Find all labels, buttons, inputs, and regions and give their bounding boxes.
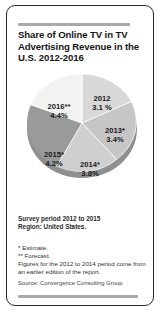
pie-label-2012-category: 2012 <box>81 94 123 103</box>
pie-label-2016: 2016** 4.4% <box>35 102 83 121</box>
top-accent-bar <box>18 23 130 26</box>
pie-label-2012-value: 3.1 % <box>81 103 123 112</box>
pie-label-2015: 2015* 4.2% <box>33 150 75 169</box>
chart-card: Share of Online TV in TV Advertising Rev… <box>6 5 154 306</box>
survey-region: Region: United States. <box>18 223 148 231</box>
pie-label-2012: 2012 3.1 % <box>81 94 123 113</box>
pie-label-2015-category: 2015* <box>33 150 75 159</box>
chart-title: Share of Online TV in TV Advertising Rev… <box>18 29 146 64</box>
footnote-figures: Figures for the 2012 to 2014 period come… <box>18 260 150 276</box>
pie-label-2015-value: 4.2% <box>33 159 75 168</box>
pie-label-2014-category: 2014* <box>69 160 111 169</box>
pie-label-2013: 2013* 3.4% <box>93 126 137 145</box>
survey-info: Survey period 2012 to 2015 Region: Unite… <box>18 215 148 232</box>
pie-label-2014: 2014* 3.8% <box>69 160 111 179</box>
pie-chart: 2012 3.1 % 2013* 3.4% 2014* 3.8% 2015* 4… <box>21 68 143 188</box>
pie-label-2013-value: 3.4% <box>93 135 137 144</box>
pie-label-2016-category: 2016** <box>35 102 83 111</box>
footnote-forecast: ** Forecast. <box>18 252 150 260</box>
pie-label-2013-category: 2013* <box>93 126 137 135</box>
pie-label-2014-value: 3.8% <box>69 169 111 178</box>
footnotes: * Estimate. ** Forecast. Figures for the… <box>18 244 150 276</box>
footnote-estimate: * Estimate. <box>18 244 150 252</box>
bottom-accent-bar <box>18 295 138 298</box>
pie-label-2016-value: 4.4% <box>35 111 83 120</box>
source-line: Source: Convergence Consulting Group <box>18 280 150 287</box>
survey-period: Survey period 2012 to 2015 <box>18 215 148 223</box>
